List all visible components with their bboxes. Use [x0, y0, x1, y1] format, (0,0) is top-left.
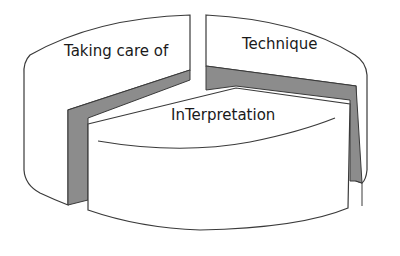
- pie-diagram: Taking care of Technique InTerpretation: [0, 0, 400, 256]
- segment-label-interpretation: InTerpretation: [171, 106, 275, 124]
- segment-interpretation: InTerpretation: [88, 88, 362, 230]
- segment-label-taking-care-of: Taking care of: [63, 42, 169, 60]
- segment-label-technique: Technique: [241, 35, 318, 53]
